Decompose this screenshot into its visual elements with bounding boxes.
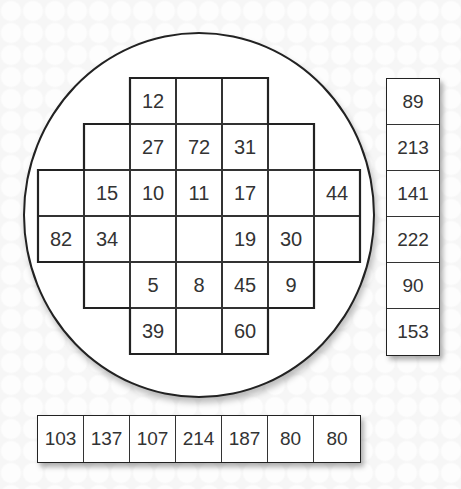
grid-cell: 34 bbox=[84, 216, 130, 262]
row-sum-cell: 89 bbox=[387, 79, 439, 125]
row-sum-cell: 153 bbox=[387, 309, 439, 355]
grid-cell-empty bbox=[314, 216, 360, 262]
grid-cell: 82 bbox=[38, 216, 84, 262]
grid-cell: 11 bbox=[176, 170, 222, 216]
grid-cell-empty bbox=[176, 216, 222, 262]
grid-cell: 30 bbox=[268, 216, 314, 262]
grid-cell-empty bbox=[176, 308, 222, 354]
grid-cell: 60 bbox=[222, 308, 268, 354]
grid-cell-empty bbox=[176, 78, 222, 124]
grid-cell-empty bbox=[268, 170, 314, 216]
grid-cell: 45 bbox=[222, 262, 268, 308]
row-sum-cell: 213 bbox=[387, 125, 439, 171]
column-sum-cell: 80 bbox=[314, 416, 360, 462]
grid-cell: 8 bbox=[176, 262, 222, 308]
grid-cell-empty bbox=[222, 78, 268, 124]
grid-cell-empty bbox=[38, 170, 84, 216]
column-sum-cell: 137 bbox=[84, 416, 130, 462]
grid-cell: 72 bbox=[176, 124, 222, 170]
grid-cell: 17 bbox=[222, 170, 268, 216]
grid-cell: 44 bbox=[314, 170, 360, 216]
grid-cell-empty bbox=[84, 124, 130, 170]
grid-cell: 12 bbox=[130, 78, 176, 124]
column-sum-cell: 103 bbox=[38, 416, 84, 462]
column-sum-cell: 107 bbox=[130, 416, 176, 462]
grid-cell: 5 bbox=[130, 262, 176, 308]
column-sum-cell: 214 bbox=[176, 416, 222, 462]
grid-cell: 27 bbox=[130, 124, 176, 170]
grid-cell: 31 bbox=[222, 124, 268, 170]
grid-cell: 39 bbox=[130, 308, 176, 354]
row-sum-cell: 222 bbox=[387, 217, 439, 263]
grid-cell-empty bbox=[268, 124, 314, 170]
grid-cell: 9 bbox=[268, 262, 314, 308]
puzzle-canvas: 12277231151011174482341930584593960 89 2… bbox=[0, 0, 461, 489]
row-sum-cell: 141 bbox=[387, 171, 439, 217]
row-sums-column: 89 213 141 222 90 153 bbox=[386, 78, 440, 356]
column-sum-cell: 80 bbox=[268, 416, 314, 462]
row-sum-cell: 90 bbox=[387, 263, 439, 309]
grid-cell: 15 bbox=[84, 170, 130, 216]
grid-cell-empty bbox=[84, 262, 130, 308]
grid-cell: 10 bbox=[130, 170, 176, 216]
grid-cell: 19 bbox=[222, 216, 268, 262]
column-sums-row: 103 137 107 214 187 80 80 bbox=[37, 415, 361, 463]
column-sum-cell: 187 bbox=[222, 416, 268, 462]
grid-cell-empty bbox=[130, 216, 176, 262]
